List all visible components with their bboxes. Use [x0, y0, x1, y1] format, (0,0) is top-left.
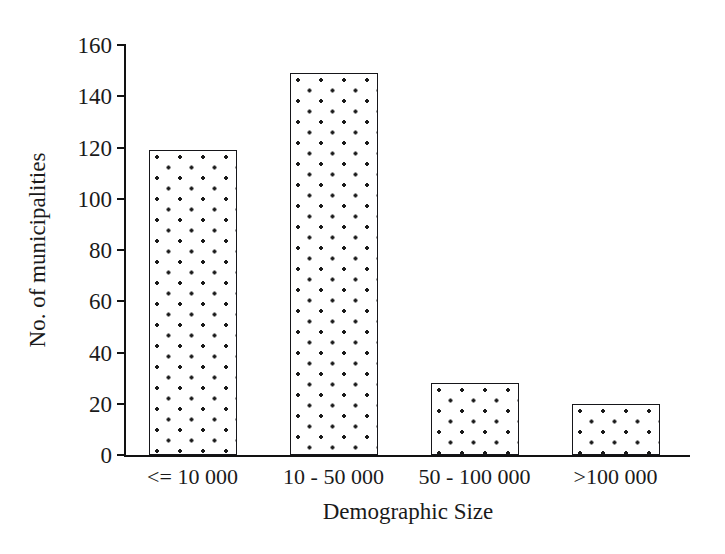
y-axis-tick-label: 60 [89, 290, 112, 313]
x-axis-tick-label: <= 10 000 [147, 466, 238, 488]
y-axis-tick-label: 160 [78, 34, 113, 57]
y-axis-tick-label: 80 [89, 239, 112, 262]
y-axis-tick [117, 300, 126, 302]
plot-area: 020406080100120140160 <= 10 00010 - 50 0… [126, 45, 690, 455]
chart-figure: 020406080100120140160 <= 10 00010 - 50 0… [0, 0, 725, 554]
x-axis-tick-label: 50 - 100 000 [419, 466, 531, 488]
y-axis-tick [117, 249, 126, 251]
x-axis-line [124, 455, 690, 457]
y-axis-tick-label: 40 [89, 341, 112, 364]
y-axis-tick-label: 120 [78, 136, 113, 159]
y-axis-tick [117, 44, 126, 46]
bar [431, 383, 519, 455]
x-axis-tick-label: 10 - 50 000 [283, 466, 384, 488]
y-axis-tick [117, 454, 126, 456]
bar [149, 150, 237, 455]
y-axis-tick [117, 198, 126, 200]
x-axis-tick-label: >100 000 [574, 466, 658, 488]
y-axis-tick [117, 352, 126, 354]
y-axis-tick-label: 0 [101, 444, 113, 467]
y-axis-tick [117, 147, 126, 149]
y-axis-tick [117, 403, 126, 405]
bar [290, 73, 378, 455]
x-axis-title: Demographic Size [126, 500, 690, 523]
y-axis-tick-label: 20 [89, 392, 112, 415]
y-axis-tick [117, 95, 126, 97]
bar [572, 404, 660, 455]
y-axis-tick-label: 140 [78, 85, 113, 108]
y-axis-tick-label: 100 [78, 187, 113, 210]
y-axis-title: No. of municipalities [18, 45, 58, 455]
